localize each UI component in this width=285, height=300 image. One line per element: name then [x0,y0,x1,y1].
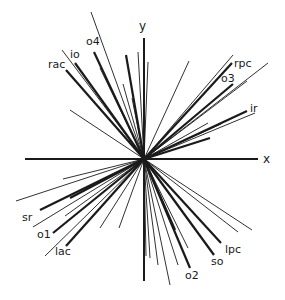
label-rpc: rpc [234,57,252,70]
vector-o3 [144,84,233,159]
label-lac: lac [55,245,71,258]
label-ir: ir [250,102,258,115]
vector-io [75,63,144,159]
label-so: so [211,255,224,268]
y-axis-label: y [139,19,146,33]
thin-vector [144,159,238,232]
label-rac: rac [48,58,65,71]
x-axis-label: x [263,152,270,166]
vector-ir [144,111,247,159]
label-sr: sr [22,211,33,224]
label-lpc: lpc [225,243,241,256]
vector-lpc [144,159,221,243]
thin-vector [144,61,189,159]
label-io: io [70,48,80,61]
label-o3: o3 [221,72,235,85]
vector-rac [66,70,144,159]
label-o2: o2 [185,269,199,282]
label-o1: o1 [37,228,51,241]
label-o4: o4 [86,35,100,48]
vector-diagram: x y racioo4rpco3irsro1laclpcsoo2 [0,0,285,300]
vector-v3 [70,159,144,198]
thin-vector [33,159,144,227]
thin-vector [45,159,144,256]
